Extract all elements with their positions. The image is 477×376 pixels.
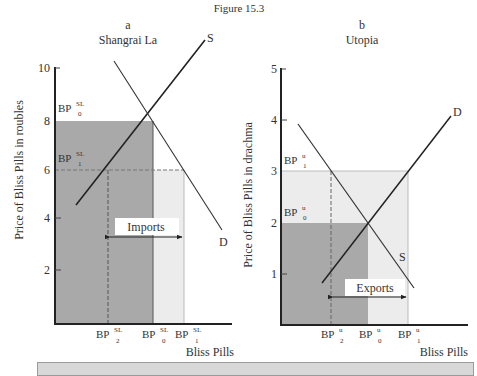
svg-text:BP: BP	[175, 328, 188, 340]
x-label-bp2: BP SL 2	[96, 326, 122, 345]
x-label-bp0: BP u 0	[359, 326, 382, 345]
svg-text:SL: SL	[76, 150, 84, 158]
svg-text:2: 2	[116, 337, 120, 345]
svg-text:u: u	[416, 326, 420, 334]
svg-text:SL: SL	[76, 100, 84, 108]
ytick-6: 6	[44, 163, 50, 177]
ytick-8: 8	[44, 114, 50, 128]
ytick-3: 3	[271, 164, 277, 178]
x-axis-label: Bliss Pills	[186, 345, 235, 359]
ytick-5: 5	[271, 62, 277, 76]
svg-text:1: 1	[303, 162, 307, 170]
svg-text:u: u	[302, 204, 306, 212]
svg-text:BP: BP	[359, 328, 372, 340]
x-label-bp1: BP SL 1	[175, 326, 201, 345]
x-label-bp2: BP u 2	[321, 326, 344, 345]
price-label-bp0: BP SL 0	[58, 100, 84, 118]
svg-text:0: 0	[303, 214, 307, 222]
demand-label: D	[453, 105, 462, 119]
svg-text:BP: BP	[96, 328, 109, 340]
svg-text:1: 1	[78, 160, 82, 168]
svg-text:SL: SL	[160, 326, 168, 334]
svg-text:BP: BP	[284, 206, 297, 218]
demand-label: D	[219, 235, 228, 249]
supply-label: S	[207, 31, 214, 45]
dark-shaded-area	[281, 223, 368, 325]
panel-a-title: Shangrai La	[99, 33, 158, 47]
y-axis-label: Price of Bliss Pills in roubles	[12, 100, 26, 240]
x-label-bp1: BP u 1	[398, 326, 421, 345]
y-axis-label: Price of Bliss Pills in drachma	[241, 122, 255, 268]
ytick-4: 4	[271, 113, 277, 127]
svg-text:BP: BP	[58, 102, 71, 114]
panel-a-letter: a	[125, 18, 131, 32]
figure-title: Figure 15.3	[214, 2, 265, 14]
exports-label: Exports	[356, 281, 394, 295]
ytick-2: 2	[271, 216, 277, 230]
panel-b-letter: b	[359, 18, 365, 32]
svg-text:BP: BP	[321, 328, 334, 340]
ytick-10: 10	[38, 61, 50, 75]
svg-text:u: u	[302, 152, 306, 160]
x-axis-label: Bliss Pills	[420, 345, 469, 359]
svg-text:u: u	[377, 326, 381, 334]
panel-b-title: Utopia	[346, 33, 379, 47]
svg-text:1: 1	[417, 337, 421, 345]
ytick-1: 1	[271, 267, 277, 281]
supply-label: S	[399, 250, 406, 264]
svg-text:0: 0	[378, 337, 382, 345]
price-label-bp1: BP u 1	[284, 152, 307, 170]
ytick-4: 4	[44, 211, 50, 225]
svg-text:0: 0	[162, 337, 166, 345]
svg-text:SL: SL	[193, 326, 201, 334]
panel-shangrai-la: a Shangrai La 10 8 6 4 2 Price of Bliss …	[12, 18, 234, 359]
ytick-2: 2	[44, 263, 50, 277]
svg-text:2: 2	[340, 337, 344, 345]
svg-text:BP: BP	[58, 152, 71, 164]
caption-box	[37, 362, 474, 376]
x-label-bp0: BP SL 0	[142, 326, 168, 345]
svg-text:SL: SL	[114, 326, 122, 334]
svg-text:1: 1	[195, 337, 199, 345]
svg-text:u: u	[339, 326, 343, 334]
svg-text:BP: BP	[142, 328, 155, 340]
svg-text:0: 0	[78, 110, 82, 118]
svg-text:BP: BP	[284, 154, 297, 166]
svg-text:BP: BP	[398, 328, 411, 340]
imports-label: Imports	[127, 220, 165, 234]
panel-utopia: b Utopia 5 4 3 2 1 Price of Bliss Pills …	[241, 18, 468, 359]
